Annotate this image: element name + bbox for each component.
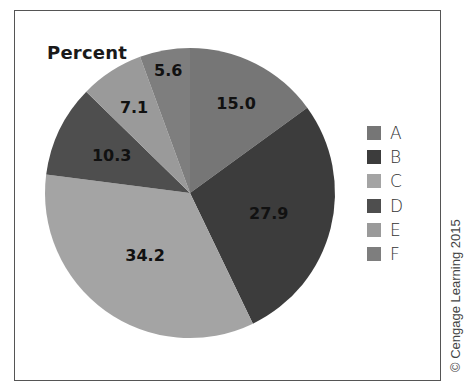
slice-label-c: 34.2 (125, 246, 164, 265)
legend-label-b: B (390, 147, 401, 167)
slice-label-d: 10.3 (92, 146, 131, 165)
legend-item-e: E (367, 218, 403, 242)
slice-label-f: 5.6 (154, 61, 182, 80)
legend-swatch-d (367, 199, 381, 213)
legend-swatch-c (367, 174, 381, 188)
slice-label-b: 27.9 (249, 204, 288, 223)
legend-label-c: C (390, 171, 402, 191)
legend-swatch-e (367, 223, 381, 237)
legend-item-b: B (367, 145, 403, 169)
legend-label-a: A (390, 123, 402, 143)
legend-item-c: C (367, 169, 403, 193)
legend: A B C D E F (367, 121, 403, 266)
legend-label-d: D (390, 196, 403, 216)
legend-label-e: E (390, 220, 401, 240)
legend-item-a: A (367, 121, 403, 145)
slice-label-a: 15.0 (216, 94, 255, 113)
legend-label-f: F (390, 244, 400, 264)
legend-swatch-f (367, 247, 381, 261)
copyright-text: © Cengage Learning 2015 (448, 219, 463, 372)
legend-item-d: D (367, 194, 403, 218)
legend-swatch-b (367, 150, 381, 164)
legend-item-f: F (367, 242, 403, 266)
legend-swatch-a (367, 126, 381, 140)
slice-label-e: 7.1 (120, 98, 148, 117)
